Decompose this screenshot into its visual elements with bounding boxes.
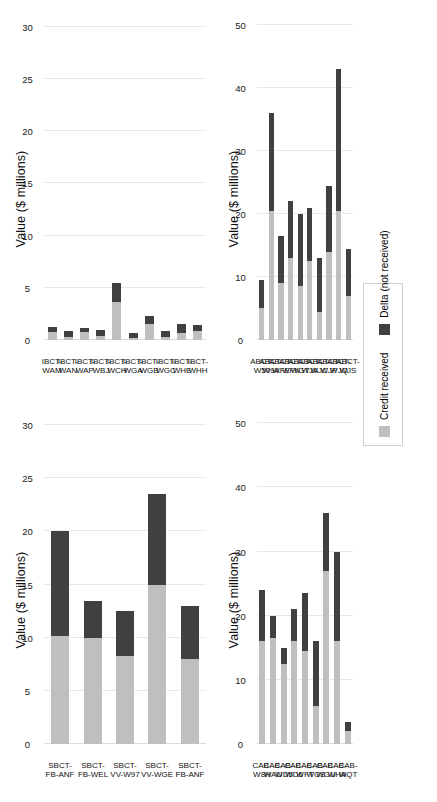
category-label-line: WJS — [336, 366, 360, 375]
x-tick-label: 25 — [22, 473, 33, 484]
category-label: SBCT-FB-ANF — [175, 761, 204, 779]
bar-row — [346, 6, 351, 340]
bar-segment-delta-not-received — [313, 641, 319, 705]
x-tick-label: 30 — [235, 145, 246, 156]
x-tick-label: 10 — [235, 271, 246, 282]
bar-segment-delta-not-received — [84, 601, 102, 638]
bar-segment-delta-not-received — [96, 330, 105, 337]
bar-row — [51, 404, 69, 744]
bar-segment-credit-received — [80, 332, 89, 340]
bar-segment-delta-not-received — [161, 331, 170, 337]
bar-segment-credit-received — [48, 332, 57, 340]
bar-segment-credit-received — [116, 656, 134, 744]
bar-row — [302, 404, 308, 744]
bar-segment-delta-not-received — [51, 532, 69, 636]
chart-panel: Value ($ millions)01020304050ABCT-W50ABC… — [213, 0, 361, 398]
bar-segment-delta-not-received — [326, 186, 331, 252]
x-tick-label: 30 — [235, 546, 246, 557]
bar-segment-delta-not-received — [148, 494, 166, 584]
bar-row — [96, 6, 105, 340]
bar-segment-delta-not-received — [177, 324, 186, 332]
chart-abct: Value ($ millions)01020304050ABCT-W50ABC… — [213, 0, 361, 398]
bar-segment-credit-received — [291, 641, 297, 744]
figure-canvas: Value ($ millions)051015202530IBCT-WAMIB… — [0, 0, 437, 802]
category-label-line: VV-WGE — [141, 770, 173, 779]
bar-segment-delta-not-received — [278, 236, 283, 283]
bar-segment-credit-received — [288, 258, 293, 340]
x-tick-label: 10 — [22, 632, 33, 643]
x-tick-label: 5 — [25, 685, 30, 696]
bar-segment-delta-not-received — [270, 616, 276, 638]
bar-row — [270, 404, 276, 744]
bar-segment-credit-received — [336, 211, 341, 340]
bar-segment-delta-not-received — [334, 552, 340, 642]
bar-segment-credit-received — [270, 638, 276, 744]
bar-row — [193, 6, 202, 340]
category-label: SBCT-VV-WGE — [141, 761, 173, 779]
bar-row — [129, 6, 138, 340]
bar-segment-credit-received — [326, 252, 331, 340]
bar-segment-delta-not-received — [259, 590, 265, 641]
bar-row — [177, 6, 186, 340]
bar-row — [298, 6, 303, 340]
x-tick-label: 40 — [235, 482, 246, 493]
bar-row — [64, 6, 73, 340]
bar-segment-delta-not-received — [48, 327, 57, 332]
legend-label: Credit received — [379, 353, 390, 420]
category-label-line: FB-ANF — [46, 770, 75, 779]
bar-row — [278, 6, 283, 340]
bar-segment-credit-received — [313, 706, 319, 744]
x-tick-label: 20 — [235, 610, 246, 621]
bar-row — [80, 6, 89, 340]
chart-ibct: Value ($ millions)051015202530IBCT-WAMIB… — [0, 0, 214, 398]
category-label-line: IBCT- — [188, 357, 208, 366]
bar-segment-credit-received — [193, 331, 202, 340]
bar-segment-delta-not-received — [346, 249, 351, 296]
x-tick-label: 0 — [25, 739, 30, 750]
bar-row — [323, 404, 329, 744]
legend-swatch-delta-not-received — [379, 324, 390, 335]
legend-item[interactable]: Delta (not received) — [379, 230, 390, 334]
category-label-line: VV-W97 — [110, 770, 139, 779]
bar-row — [281, 404, 287, 744]
bar-segment-delta-not-received — [281, 648, 287, 664]
bar-segment-delta-not-received — [323, 513, 329, 571]
bar-segment-delta-not-received — [116, 611, 134, 656]
x-tick-label: 20 — [235, 208, 246, 219]
bar-segment-credit-received — [307, 261, 312, 340]
bar-row — [48, 6, 57, 340]
category-label-line: FB-WEL — [77, 770, 107, 779]
legend-item[interactable]: Credit received — [379, 353, 390, 437]
bar-segment-delta-not-received — [193, 325, 202, 331]
bar-row — [317, 6, 322, 340]
bar-segment-credit-received — [259, 309, 264, 341]
bar-segment-credit-received — [181, 659, 199, 744]
bar-row — [291, 404, 297, 744]
x-tick-label: 15 — [22, 178, 33, 189]
bar-segment-delta-not-received — [145, 316, 154, 324]
bar-row — [84, 404, 102, 744]
bar-segment-credit-received — [317, 312, 322, 340]
category-label-line: SBCT- — [77, 761, 107, 770]
bar-row — [345, 404, 351, 744]
bar-row — [145, 6, 154, 340]
bar-segment-credit-received — [84, 638, 102, 744]
x-tick-label: 10 — [235, 674, 246, 685]
bar-segment-delta-not-received — [288, 201, 293, 258]
bar-segment-delta-not-received — [269, 113, 274, 211]
chart-panel: Value ($ millions)01020304050CAB-W8HCAB-… — [213, 398, 361, 802]
bar-segment-delta-not-received — [64, 331, 73, 337]
category-label-line: SBCT- — [175, 761, 204, 770]
bar-segment-delta-not-received — [336, 69, 341, 211]
x-tick-label: 10 — [22, 230, 33, 241]
x-tick-label: 0 — [25, 335, 30, 346]
category-label: SBCT-VV-W97 — [110, 761, 139, 779]
bar-row — [161, 6, 170, 340]
bar-row — [288, 6, 293, 340]
bar-segment-credit-received — [177, 333, 186, 340]
x-tick-label: 5 — [25, 282, 30, 293]
category-label: ABCT-WJS — [336, 357, 360, 375]
bar-row — [326, 6, 331, 340]
plot-area — [44, 404, 206, 744]
category-label: CAB-WQT — [338, 761, 357, 779]
